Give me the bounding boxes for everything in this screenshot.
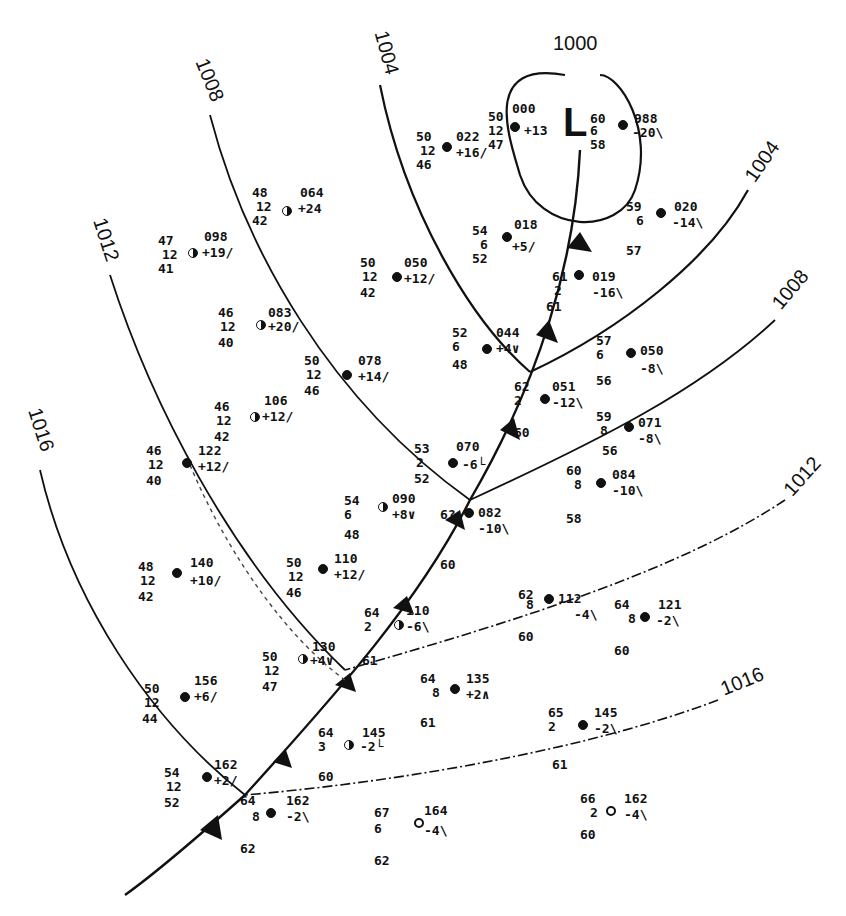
pressure: 050 — [404, 256, 427, 270]
temperature: 52 — [452, 326, 468, 340]
sky-cover-icon — [182, 458, 192, 468]
dewpoint: 61 — [552, 758, 568, 772]
visibility: 12 — [264, 664, 280, 678]
dewpoint: 60 — [514, 426, 530, 440]
pressure: 000 — [512, 102, 535, 116]
temperature: 59 — [596, 410, 612, 424]
pressure-tendency: -2\ — [656, 614, 679, 628]
visibility: 12 — [362, 270, 378, 284]
pressure: 022 — [456, 130, 479, 144]
pressure: 090 — [392, 492, 415, 506]
visibility: 2 — [364, 620, 372, 634]
visibility: 6 — [480, 238, 488, 252]
temperature: 50 — [304, 354, 320, 368]
visibility: 3 — [318, 740, 326, 754]
visibility: 6 — [596, 348, 604, 362]
pressure-tendency: +20/ — [268, 320, 299, 334]
visibility: 12 — [216, 414, 232, 428]
sky-cover-icon — [626, 348, 636, 358]
sky-cover-icon — [202, 772, 212, 782]
sky-cover-icon — [172, 568, 182, 578]
sky-cover-icon — [502, 232, 512, 242]
visibility: 6 — [344, 508, 352, 522]
visibility: 12 — [256, 200, 272, 214]
isobar-1000 — [507, 73, 641, 222]
visibility: 12 — [288, 570, 304, 584]
dewpoint: 62 — [240, 842, 256, 856]
temperature: 60 — [566, 464, 582, 478]
dewpoint: 57 — [626, 244, 642, 258]
sky-cover-icon — [180, 692, 190, 702]
pressure: 156 — [194, 674, 217, 688]
sky-cover-icon — [606, 806, 616, 816]
temperature: 67 — [374, 806, 390, 820]
visibility: 12 — [306, 368, 322, 382]
pressure-tendency: -10\ — [612, 484, 643, 498]
temperature: 50 — [262, 650, 278, 664]
pressure: 162 — [214, 758, 237, 772]
pressure: 121 — [658, 598, 681, 612]
sky-cover-icon — [250, 412, 260, 422]
pressure-tendency: +12/ — [334, 568, 365, 582]
pressure-tendency: +4∨ — [496, 342, 519, 356]
pressure-tendency: +14/ — [358, 370, 389, 384]
pressure: 110 — [406, 604, 429, 618]
pressure-tendency: -2\ — [286, 810, 309, 824]
visibility: 6 — [374, 822, 382, 836]
pressure-tendency: -4\ — [624, 808, 647, 822]
sky-cover-icon — [464, 508, 474, 518]
temperature: 54 — [164, 766, 180, 780]
pressure-tendency: -4\ — [424, 824, 447, 838]
pressure: 110 — [334, 552, 357, 566]
pressure-tendency: +4∨ — [310, 654, 333, 668]
pressure: 140 — [190, 556, 213, 570]
pressure: 106 — [264, 394, 287, 408]
dewpoint: 60 — [318, 770, 334, 784]
pressure: 145 — [594, 706, 617, 720]
pressure-tendency: +12/ — [262, 410, 293, 424]
visibility: 8 — [526, 598, 534, 612]
visibility: 8 — [574, 478, 582, 492]
pressure: 135 — [466, 672, 489, 686]
temperature: 54 — [344, 494, 360, 508]
dewpoint: 60 — [440, 558, 456, 572]
sky-cover-icon — [282, 206, 292, 216]
temperature: 50 — [416, 130, 432, 144]
dewpoint: 60 — [614, 644, 630, 658]
visibility: 8 — [252, 810, 260, 824]
dewpoint: 40 — [146, 474, 162, 488]
isobar-1012-east — [345, 500, 785, 670]
pressure: 084 — [612, 468, 635, 482]
pressure-tendency: +2/ — [214, 774, 237, 788]
isobar-1008-west — [210, 115, 470, 500]
pressure-tendency: -4\ — [574, 608, 597, 622]
dewpoint: 48 — [344, 528, 360, 542]
pressure-tendency: +2∧ — [466, 688, 489, 702]
dewpoint: 46 — [286, 586, 302, 600]
temperature: 64 — [420, 672, 436, 686]
pressure: 078 — [358, 354, 381, 368]
visibility: 2 — [548, 720, 556, 734]
pressure: 164 — [424, 804, 447, 818]
pressure-tendency: +16/ — [456, 146, 487, 160]
sky-cover-icon — [656, 208, 666, 218]
sky-cover-icon — [624, 422, 634, 432]
visibility: 2 — [590, 806, 598, 820]
visibility: 12 — [166, 780, 182, 794]
sky-cover-icon — [448, 458, 458, 468]
dewpoint: 56 — [602, 444, 618, 458]
sky-cover-icon — [344, 740, 354, 750]
dewpoint: 58 — [590, 138, 606, 152]
visibility: 12 — [140, 574, 156, 588]
pressure: 050 — [640, 344, 663, 358]
pressure-tendency: -20\ — [632, 126, 663, 140]
isobar-label-1000: 1000 — [553, 32, 598, 55]
visibility: 12 — [144, 696, 160, 710]
pressure-tendency: +13 — [524, 124, 547, 138]
temperature: 46 — [214, 400, 230, 414]
dewpoint: 48 — [452, 358, 468, 372]
temperature: 50 — [144, 682, 160, 696]
pressure: 162 — [286, 794, 309, 808]
pressure: 020 — [674, 200, 697, 214]
cold-front-barb — [536, 320, 558, 343]
